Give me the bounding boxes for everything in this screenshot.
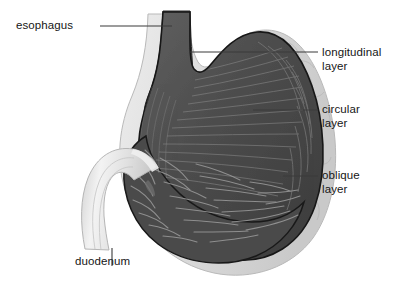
- stomach-anatomy-figure: esophagus longitudinal layer circular la…: [0, 0, 415, 286]
- stomach-diagram-svg: [0, 0, 415, 286]
- label-esophagus: esophagus: [16, 19, 73, 33]
- label-circular-layer: circular layer: [322, 103, 360, 130]
- label-longitudinal-layer: longitudinal layer: [322, 46, 381, 73]
- label-duodenum: duodenum: [75, 255, 130, 269]
- label-oblique-layer: oblique layer: [322, 169, 360, 196]
